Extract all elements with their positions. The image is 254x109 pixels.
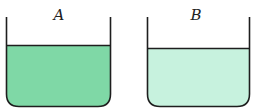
beaker-a: A [7, 6, 111, 107]
beaker-a-label: A [52, 6, 65, 24]
beaker-b-label: B [189, 6, 201, 24]
beaker-b: B [148, 6, 250, 107]
beakers-diagram: A B [0, 0, 254, 109]
beaker-b-liquid [148, 49, 250, 107]
beaker-a-liquid [7, 46, 111, 107]
